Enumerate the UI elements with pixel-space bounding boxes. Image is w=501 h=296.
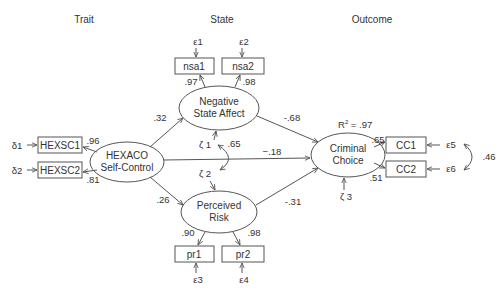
loading-hexsc2: .81 (86, 174, 99, 185)
loading-pr2: .98 (247, 227, 260, 238)
hexaco-hexsc1-path (83, 147, 97, 152)
epsilon3-label: ε3 (193, 274, 203, 285)
nsa-label-1: Negative (199, 96, 239, 107)
path-hexaco-cc: −.18 (263, 146, 282, 157)
path-hexaco-nsa: .32 (153, 112, 166, 123)
pr2-label: pr2 (236, 249, 251, 260)
epsilon1-label: ε1 (193, 36, 203, 47)
hexaco-label-2: Self-Control (101, 162, 154, 173)
loading-cc1: .65 (371, 134, 384, 145)
pr-label-2: Risk (209, 212, 229, 223)
loading-cc2: .51 (369, 172, 382, 183)
cc1-label: CC1 (396, 140, 416, 151)
header-trait: Trait (74, 14, 94, 25)
loading-nsa2: .98 (242, 76, 255, 87)
nsa-label-2: State Affect (194, 108, 245, 119)
header-outcome: Outcome (352, 14, 393, 25)
path-hexaco-pr: .26 (156, 194, 169, 205)
loading-pr1: .90 (181, 227, 194, 238)
nsa-nsa2-path (235, 75, 240, 87)
nsa2-label: nsa2 (232, 61, 254, 72)
cc-label-2: Choice (332, 155, 364, 166)
pr-pr2-path (233, 232, 240, 245)
nsa-nsa1-path (200, 75, 205, 87)
e5-e6-covariance (464, 144, 472, 170)
cov-z1-z2: .65 (227, 138, 240, 149)
z1-arrow (214, 131, 216, 140)
hexaco-label-1: HEXACO (106, 150, 148, 161)
epsilon5-label: ε5 (446, 139, 456, 150)
path-pr-cc: -.31 (285, 196, 301, 207)
pr-pr1-path (198, 232, 205, 245)
sem-diagram: Trait State Outcome (0, 0, 501, 296)
header-state: State (210, 14, 234, 25)
delta1-label: δ1 (12, 140, 23, 151)
delta2-label: δ2 (12, 165, 23, 176)
epsilon4-label: ε4 (239, 274, 249, 285)
epsilon2-label: ε2 (239, 36, 249, 47)
zeta1-label: ζ 1 (199, 139, 211, 150)
hexsc2-label: HEXSC2 (40, 165, 80, 176)
cov-e5-e6: .46 (482, 151, 495, 162)
pr1-label: pr1 (187, 249, 202, 260)
nsa1-label: nsa1 (183, 61, 205, 72)
hexsc1-label: HEXSC1 (40, 140, 80, 151)
loading-hexsc1: .96 (86, 135, 99, 146)
zeta2-label: ζ 2 (199, 168, 211, 179)
zeta3-label: ζ 3 (340, 191, 352, 202)
cc-label-1: Criminal (330, 143, 367, 154)
r-squared: R2 = .97 (338, 119, 372, 130)
z2-arrow (210, 181, 215, 190)
epsilon6-label: ε6 (446, 163, 456, 174)
loading-nsa1: .97 (184, 76, 197, 87)
path-nsa-cc: -.68 (284, 112, 300, 123)
hexaco-cc-path (164, 158, 310, 160)
pr-label-1: Perceived (197, 200, 241, 211)
cc2-label: CC2 (396, 164, 416, 175)
